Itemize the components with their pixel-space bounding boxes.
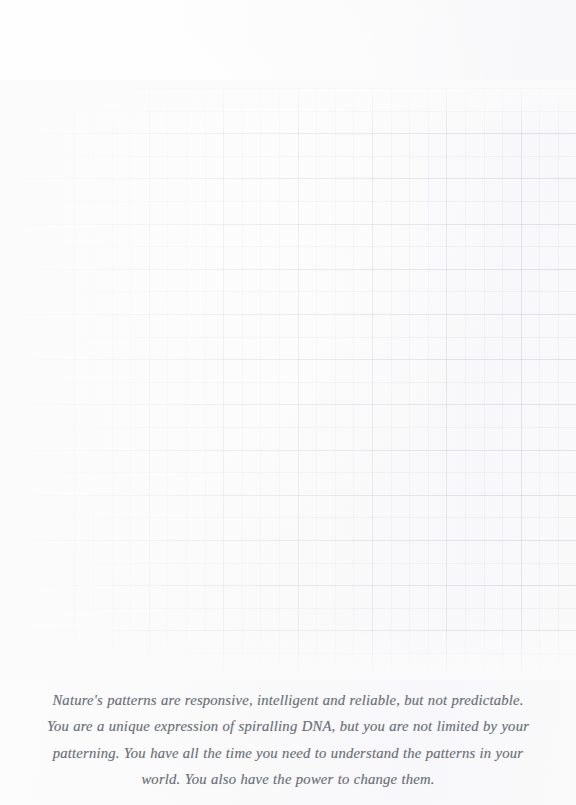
grid-minor-lines [0,88,576,672]
quotation-line-1: Nature's patterns are responsive, intell… [18,687,558,714]
quotation-line-2: You are a unique expression of spirallin… [18,713,558,740]
quotation-line-4: world. You also have the power to change… [18,766,558,793]
scanned-page: Nature's patterns are responsive, intell… [0,0,576,805]
quotation-text-block: Nature's patterns are responsive, intell… [0,687,576,793]
quotation-line-3: patterning. You have all the time you ne… [18,740,558,767]
paper-texture-overlay [0,0,576,805]
grid-fade-overlay [0,80,576,680]
grid-major-lines [0,88,576,672]
